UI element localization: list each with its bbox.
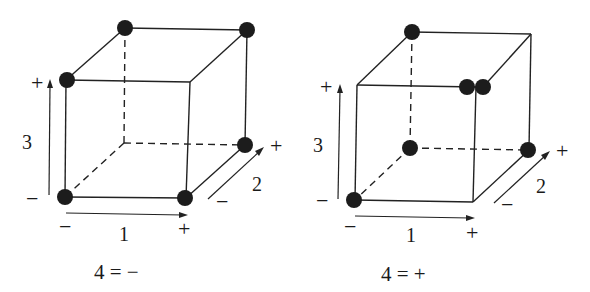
design-point-replicate	[475, 79, 491, 95]
design-point	[402, 140, 418, 156]
panel-caption: 4 = −	[94, 260, 139, 284]
cube-edges	[355, 32, 531, 202]
design-points	[346, 24, 536, 208]
design-point	[239, 22, 255, 38]
axis-1-high-sign: +	[178, 216, 190, 241]
design-points	[57, 20, 255, 206]
design-point	[237, 137, 253, 153]
axis-3-label: 3	[22, 131, 32, 153]
design-point	[404, 24, 420, 40]
axis-1-low-sign: −	[59, 214, 71, 239]
axis-3-low-sign: −	[316, 188, 328, 213]
axis-2-high-sign: +	[270, 133, 282, 158]
axis-3: + 3 −	[22, 70, 53, 211]
cube-panel-right: + 3 − − 1 + − 2 + 4 = +	[313, 24, 568, 286]
axis-3-label: 3	[313, 134, 323, 156]
axis-3-high-sign: +	[320, 74, 332, 99]
axis-3-low-sign: −	[26, 186, 38, 211]
axis-2-low-sign: −	[216, 189, 228, 214]
axis-1-label: 1	[119, 223, 129, 245]
design-point	[346, 192, 362, 208]
axis-2-label: 2	[252, 173, 262, 195]
design-point	[117, 20, 133, 36]
axis-1-label: 1	[406, 224, 416, 246]
axis-3: + 3 −	[313, 74, 343, 213]
cube-edges	[65, 28, 247, 198]
axis-3-high-sign: +	[31, 70, 43, 95]
axis-1: − 1 +	[344, 214, 478, 246]
axis-1-low-sign: −	[344, 214, 356, 239]
axis-2-high-sign: +	[556, 138, 568, 163]
cube-hidden-edges	[65, 28, 245, 197]
axis-1: − 1 +	[59, 212, 190, 245]
design-point	[520, 142, 536, 158]
axis-1-high-sign: +	[466, 220, 478, 245]
design-point	[57, 189, 73, 205]
design-point-replicate	[459, 79, 475, 95]
axis-2-label: 2	[536, 175, 546, 197]
cube-plots-figure: + 3 − − 1 + − 2 + 4 = −	[0, 0, 590, 292]
axis-2-low-sign: −	[501, 192, 513, 217]
design-point	[59, 72, 75, 88]
cube-panel-left: + 3 − − 1 + − 2 + 4 = −	[22, 20, 282, 284]
panel-caption: 4 = +	[381, 262, 426, 286]
design-point	[177, 190, 193, 206]
